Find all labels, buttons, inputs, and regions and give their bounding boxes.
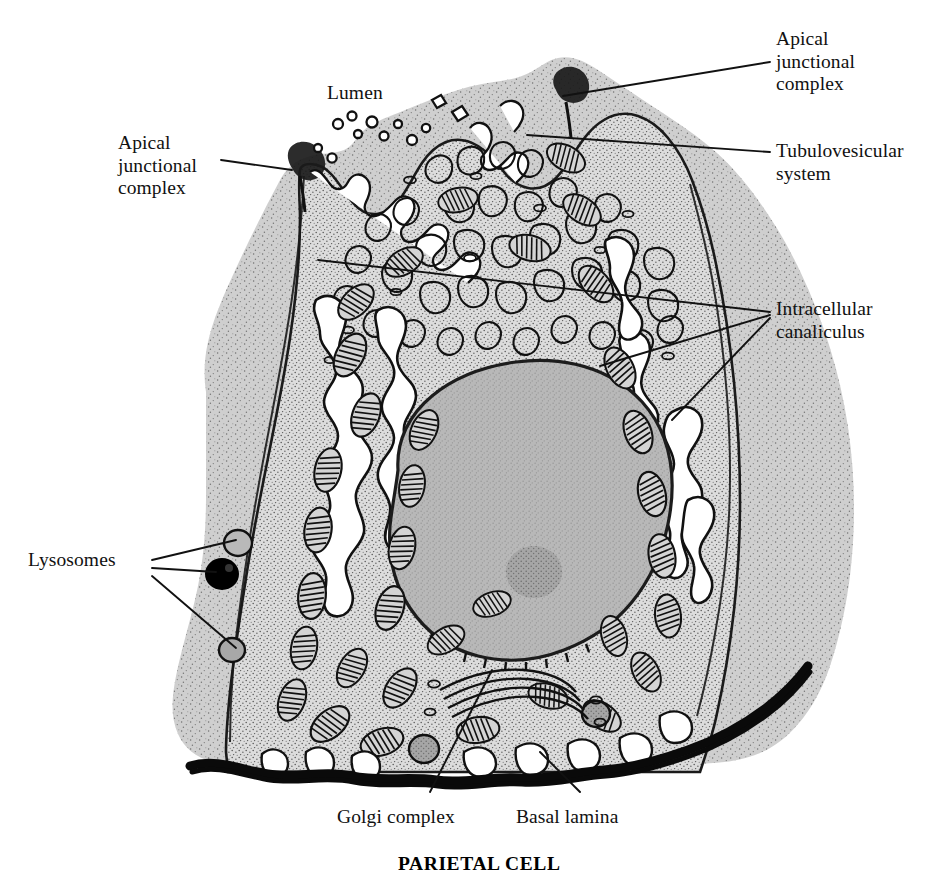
label-basal-lamina: Basal lamina <box>516 806 618 829</box>
label-golgi-complex: Golgi complex <box>337 806 455 829</box>
figure-caption: PARIETAL CELL <box>398 853 561 875</box>
dense-body-basal <box>409 735 439 763</box>
label-tubulovesicular-system: Tubulovesicularsystem <box>776 140 904 185</box>
lysosome-highlight <box>225 564 233 572</box>
label-apical-junctional-complex-right: Apicaljunctionalcomplex <box>776 28 855 96</box>
nucleolus <box>506 546 562 598</box>
leader-ajc-left <box>221 160 292 170</box>
label-apical-junctional-complex-left: Apicaljunctionalcomplex <box>118 132 197 200</box>
lysosome-pale-upper <box>224 530 252 556</box>
lysosome-pale-lower <box>219 638 245 662</box>
label-intracellular-canaliculus: Intracellularcanaliculus <box>776 298 873 343</box>
label-lysosomes: Lysosomes <box>28 549 116 572</box>
label-lumen: Lumen <box>327 82 383 105</box>
lysosome-dense <box>206 559 238 589</box>
figure-canvas: Apicaljunctionalcomplex Lumen Apicaljunc… <box>0 0 948 892</box>
